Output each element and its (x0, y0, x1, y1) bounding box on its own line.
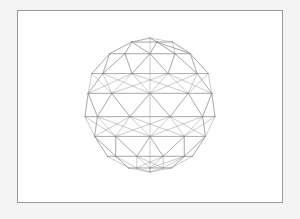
mesh-edge (184, 136, 205, 156)
mesh-edge (170, 117, 184, 137)
mesh-edge (150, 54, 168, 74)
mesh-edge (150, 42, 157, 54)
mesh-edge (203, 93, 212, 116)
mesh-edge (116, 136, 137, 156)
mesh-edge (192, 136, 205, 156)
mesh-edge (88, 93, 97, 116)
mesh-edge (95, 117, 98, 137)
mesh-edge (170, 93, 188, 116)
mesh-edge (95, 136, 108, 156)
geodesic-sphere-mesh (85, 38, 215, 172)
mesh-edge (97, 93, 111, 116)
mesh-edge (92, 54, 110, 74)
mesh-edge (188, 93, 202, 116)
mesh-edge (150, 93, 170, 116)
mesh-edge (88, 74, 103, 94)
mesh-edge (150, 156, 184, 168)
mesh-edge (95, 136, 116, 156)
mesh-edge (212, 93, 215, 116)
mesh-edge (112, 74, 132, 94)
mesh-edge (137, 156, 150, 168)
mesh-edge (150, 117, 170, 137)
mesh-edge (197, 74, 212, 94)
mesh-edge (163, 156, 184, 168)
mesh-edge (168, 74, 188, 94)
mesh-edge (116, 156, 137, 168)
mesh-edge (150, 156, 163, 168)
mesh-edge (150, 136, 163, 156)
mesh-edge (163, 136, 184, 156)
mesh-edge (137, 136, 150, 156)
wireframe-sphere-canvas (0, 0, 300, 219)
mesh-edge (125, 54, 132, 74)
mesh-edge (157, 42, 190, 54)
mesh-edge (85, 93, 88, 116)
mesh-edge (130, 93, 150, 116)
mesh-edge (132, 38, 150, 42)
mesh-edge (132, 42, 150, 54)
mesh-edge (112, 93, 130, 116)
mesh-edge (173, 42, 191, 54)
mesh-edge (108, 156, 129, 168)
mesh-edge (157, 42, 175, 54)
mesh-edge (168, 54, 175, 74)
mesh-edge (190, 54, 208, 74)
mesh-edge (88, 74, 92, 94)
mesh-edge (171, 156, 192, 168)
mesh-edge (130, 117, 150, 137)
mesh-edge (132, 54, 150, 74)
mesh-edge (203, 117, 206, 137)
mesh-edge (116, 117, 130, 137)
render-viewport (0, 0, 300, 219)
mesh-edge (208, 74, 212, 94)
